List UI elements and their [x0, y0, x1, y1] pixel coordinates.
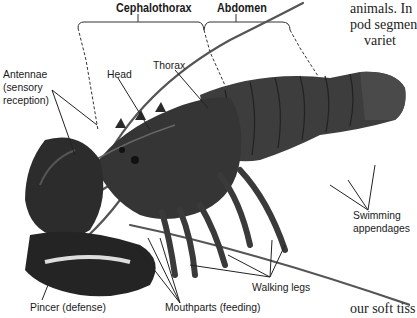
- label-swimming-1: Swimming: [353, 209, 401, 222]
- body-text-line-1: animals. In: [350, 0, 412, 17]
- label-head: Head: [107, 68, 132, 81]
- label-swimming-2: appendages: [353, 222, 410, 235]
- label-pincer: Pincer (defense): [30, 301, 106, 314]
- body-text-line-4: our soft tiss: [350, 300, 415, 317]
- label-thorax: Thorax: [153, 59, 185, 72]
- label-antennae-2: (sensory: [3, 81, 43, 94]
- label-cephalothorax: Cephalothorax: [116, 2, 192, 15]
- label-antennae-3: reception): [3, 94, 49, 107]
- body-text-line-3: variet: [364, 32, 396, 49]
- label-abdomen: Abdomen: [217, 2, 267, 15]
- label-walking-legs: Walking legs: [252, 281, 310, 294]
- label-mouthparts: Mouthparts (feeding): [165, 301, 261, 314]
- lobster-cephalothorax: [95, 98, 241, 220]
- label-antennae-1: Antennae: [3, 68, 47, 81]
- body-text-line-2: pod segmen: [350, 16, 417, 33]
